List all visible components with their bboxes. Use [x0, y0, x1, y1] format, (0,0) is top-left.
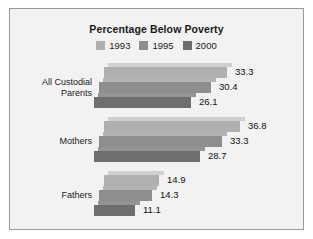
bar-top-face — [103, 132, 226, 136]
legend-label-2000: 2000 — [196, 41, 217, 51]
bar-end-cap — [159, 171, 164, 175]
bar-top-face — [103, 186, 156, 190]
bar-top-face — [98, 201, 139, 205]
bar-value-label: 14.3 — [160, 189, 179, 200]
bar-end-cap — [152, 186, 157, 190]
bar-end-cap — [211, 78, 216, 82]
bar-segment — [99, 190, 152, 201]
bar-group: Mothers36.833.328.7 — [10, 117, 305, 168]
legend-swatch-1995 — [139, 41, 148, 50]
bar-value-label: 28.7 — [208, 150, 227, 161]
bar-value-label: 30.4 — [219, 81, 238, 92]
bar-top-face — [108, 117, 244, 121]
category-label: Fathers — [14, 190, 92, 201]
chart-plot-area: All CustodialParents33.330.426.1Mothers3… — [10, 61, 305, 229]
bar-value-label: 26.1 — [199, 96, 218, 107]
legend-swatch-1993 — [96, 41, 105, 50]
bar-value-label: 33.3 — [230, 135, 249, 146]
bar-end-cap — [135, 201, 140, 205]
bar-segment — [94, 205, 135, 216]
bar-end-cap — [222, 132, 227, 136]
legend-item-2000: 2000 — [183, 41, 217, 51]
legend-swatch-2000 — [183, 41, 192, 50]
category-label: All CustodialParents — [14, 77, 92, 98]
chart-legend: 1993 1995 2000 — [10, 41, 303, 51]
legend-label-1993: 1993 — [109, 41, 130, 51]
bar-top-face — [108, 63, 231, 67]
chart-frame: Percentage Below Poverty 1993 1995 2000 … — [9, 8, 304, 230]
bar-value-label: 33.3 — [235, 66, 254, 77]
bar-group: Fathers14.914.311.1 — [10, 171, 305, 222]
bar-top-face — [98, 93, 195, 97]
chart-title: Percentage Below Poverty — [10, 23, 303, 35]
legend-item-1993: 1993 — [96, 41, 130, 51]
legend-label-1995: 1995 — [152, 41, 173, 51]
legend-item-1995: 1995 — [139, 41, 173, 51]
category-label-line: All Custodial — [14, 77, 92, 88]
bar-segment — [99, 82, 211, 93]
bar-top-face — [108, 171, 163, 175]
bar-segment — [94, 97, 191, 108]
bar-segment — [104, 67, 227, 78]
bar-value-label: 14.9 — [167, 174, 186, 185]
bar-end-cap — [240, 117, 245, 121]
category-label-line: Fathers — [14, 190, 92, 201]
category-label-line: Parents — [14, 88, 92, 99]
bar-segment — [104, 175, 159, 186]
bar-top-face — [103, 78, 215, 82]
bar-top-face — [98, 147, 204, 151]
bar-value-label: 11.1 — [143, 204, 161, 215]
category-label: Mothers — [14, 136, 92, 147]
bar-end-cap — [200, 147, 205, 151]
bar-group: All CustodialParents33.330.426.1 — [10, 63, 305, 114]
bar-value-label: 36.8 — [248, 120, 267, 131]
bar-end-cap — [227, 63, 232, 67]
bar-segment — [99, 136, 222, 147]
category-label-line: Mothers — [14, 136, 92, 147]
bar-segment — [94, 151, 200, 162]
bar-segment — [104, 121, 240, 132]
bar-end-cap — [191, 93, 196, 97]
